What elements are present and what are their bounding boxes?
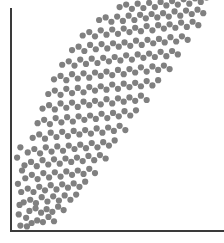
scatter-point [129,6,135,12]
scatter-point [44,198,50,204]
scatter-point [121,99,127,105]
scatter-point [30,135,36,141]
scatter-point [52,106,58,112]
scatter-point [25,185,31,191]
scatter-point [171,8,177,14]
scatter-point [175,51,181,57]
scatter-point [80,32,86,38]
scatter-point [120,18,126,24]
scatter-point [175,1,181,7]
scatter-point [138,28,144,34]
scatter-point [132,25,138,31]
scatter-point [45,161,51,167]
scatter-point [160,10,166,16]
scatter-point [109,26,115,32]
scatter-point [100,55,106,61]
scatter-point [77,56,83,62]
scatter-point [59,181,65,187]
scatter-point [150,40,156,46]
scatter-point [98,83,104,89]
scatter-point [25,149,31,155]
scatter-point [53,186,59,192]
scatter-point [144,23,150,29]
scatter-point [69,71,75,77]
scatter-point [132,98,138,104]
scatter-point [59,129,65,135]
scatter-point [27,197,33,203]
scatter-point [24,223,30,229]
scatter-point [54,143,60,149]
scatter-point [103,14,109,20]
scatter-point [40,170,46,176]
scatter-point [19,167,25,173]
scatter-point [149,27,155,33]
scatter-point [56,198,62,204]
scatter-point [35,176,41,182]
scatter-point [66,58,72,64]
scatter-point [76,184,82,190]
scatter-point [109,72,115,78]
scatter-point [146,50,152,56]
scatter-point [115,86,121,92]
scatter-point [177,13,183,19]
scatter-point [75,167,81,173]
scatter-point [149,82,155,88]
scatter-point [22,175,28,181]
scatter-point [63,105,69,111]
scatter-point [35,120,41,126]
scatter-point [66,142,72,148]
scatter-point [195,22,201,28]
scatter-point [73,192,79,198]
scatter-point [71,180,77,186]
scatter-point [146,0,152,6]
scatter-point [200,10,206,16]
scatter-point [192,0,198,2]
scatter-point [87,112,93,118]
scatter-point [166,13,172,19]
scatter-point [75,75,81,81]
scatter-point [49,209,55,215]
scatter-point [36,131,42,137]
scatter-point [76,113,82,119]
scatter-point [52,169,58,175]
scatter-point [46,102,52,108]
scatter-point [93,46,99,52]
scatter-point [50,193,56,199]
scatter-point [135,1,141,7]
scatter-point [45,214,51,220]
scatter-point [80,99,86,105]
scatter-point [86,102,92,108]
scatter-point [42,136,48,142]
scatter-point [115,95,121,101]
scatter-point [106,142,112,148]
scatter-point [108,19,114,25]
scatter-point [158,49,164,55]
scatter-point [123,52,129,58]
scatter-point [121,39,127,45]
scatter-point [104,45,110,51]
scatter-point [115,67,121,73]
scatter-point [92,170,98,176]
scatter-point [127,43,133,49]
scatter-point [94,144,100,150]
scatter-point [135,51,141,57]
scatter-point [167,66,173,72]
scatter-point [122,127,128,133]
scatter-point [97,152,103,158]
scatter-point [144,78,150,84]
scatter-point [110,110,116,116]
scatter-point [64,114,70,120]
scatter-point [70,118,76,124]
scatter-point [65,133,71,139]
scatter-point [87,42,93,48]
scatter-point [82,179,88,185]
scatter-point [83,61,89,67]
scatter-point [30,189,36,195]
scatter-point [98,111,104,117]
scatter-point [42,187,48,193]
scatter-point [94,60,100,66]
scatter-point [89,140,95,146]
scatter-point [18,189,24,195]
scatter-point [116,44,122,50]
scatter-point [46,174,52,180]
